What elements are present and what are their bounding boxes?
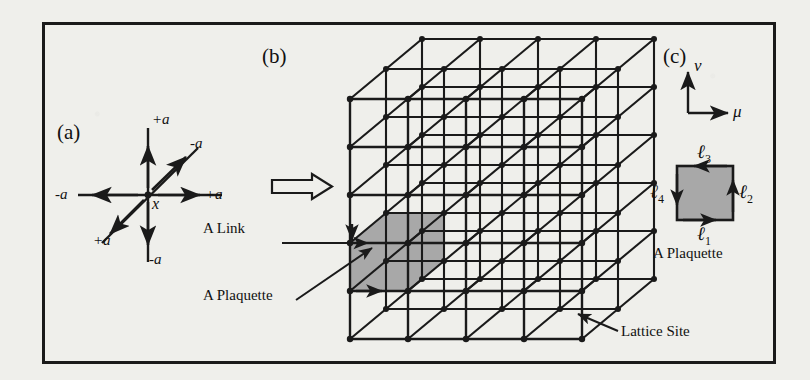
panel-c-label: (c) xyxy=(663,46,686,67)
site-center-dot xyxy=(145,192,152,199)
arrow-up-right xyxy=(152,157,186,190)
label-minus-a-down: -a xyxy=(149,252,162,267)
panel-b-lattice xyxy=(282,36,657,342)
panel-c-caption: A Plaquette xyxy=(653,246,723,261)
label-plus-a-right: +a xyxy=(205,187,223,202)
annotation-a-link: A Link xyxy=(203,221,245,236)
mu-axis-label: μ xyxy=(733,103,742,120)
annotation-lattice-site: Lattice Site xyxy=(621,324,690,339)
figure-root: (a) (b) (c) +a -a +a -a -a +a x A Link A… xyxy=(0,0,810,380)
plaquette-square xyxy=(677,166,733,220)
link-2-label: ℓ2 xyxy=(739,182,753,205)
arrow-down-left xyxy=(110,200,144,234)
label-plus-a-up: +a xyxy=(152,112,170,127)
label-site-x: x xyxy=(152,196,159,212)
panel-b-label: (b) xyxy=(262,46,287,67)
nu-axis-label: ν xyxy=(694,57,702,74)
block-arrow-right-icon xyxy=(272,174,332,199)
annotation-a-plaquette: A Plaquette xyxy=(203,288,273,303)
link-4-label: ℓ4 xyxy=(650,182,664,205)
panel-a-label: (a) xyxy=(57,122,80,143)
label-minus-a-left: -a xyxy=(55,187,68,202)
link-3-label: ℓ3 xyxy=(697,142,711,165)
callout-arrow-lattice-site xyxy=(578,314,618,331)
label-plus-a-down-left: +a xyxy=(93,233,111,248)
label-minus-a-up-right: -a xyxy=(190,136,203,151)
link-1-label: ℓ1 xyxy=(697,224,711,247)
